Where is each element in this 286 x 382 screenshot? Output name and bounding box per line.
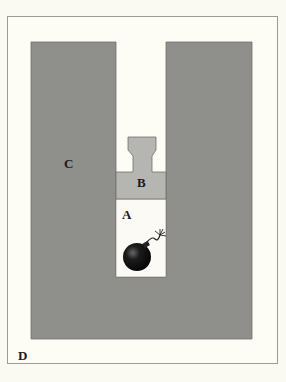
label-d: D [18,349,27,362]
diagram-canvas [0,0,286,382]
label-b: B [137,176,146,189]
label-c: C [64,157,73,170]
label-a: A [122,208,131,221]
